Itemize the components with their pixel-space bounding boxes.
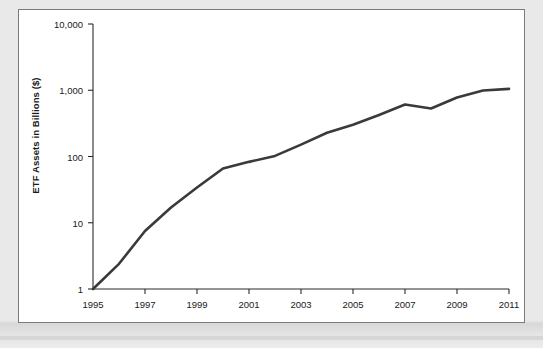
chart-plot-area: ETF Assets in Billions ($) 10,0001,00010… <box>19 10 524 322</box>
data-line-etf-assets <box>93 89 509 289</box>
chart-svg <box>19 10 526 324</box>
figure-panel: ETF Assets in Billions ($) 10,0001,00010… <box>18 9 525 323</box>
bottom-band <box>0 336 543 340</box>
tick-marks <box>88 24 509 294</box>
axis-lines <box>93 24 509 289</box>
